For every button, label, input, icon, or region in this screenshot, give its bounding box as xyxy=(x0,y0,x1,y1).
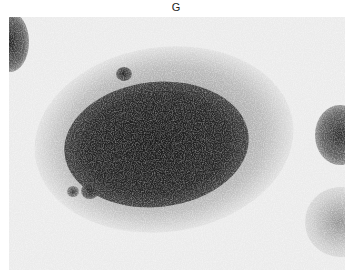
grain-texture xyxy=(9,17,345,270)
panel-label: G xyxy=(0,1,352,13)
micrograph-image xyxy=(9,17,345,270)
